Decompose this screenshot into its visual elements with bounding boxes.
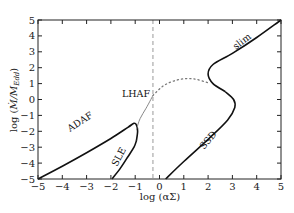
svg-text:log (Ṁ/MEdd): log (Ṁ/MEdd) [8,68,21,133]
y-axis-label: log (Ṁ/MEdd) [8,68,21,133]
x-tick-label: −3 [79,181,94,192]
curve-ssd [166,92,236,180]
y-axis-label-sub: Edd [13,71,21,87]
y-tick-label: 5 [29,15,35,26]
x-tick-label: 5 [278,181,284,192]
y-tick-label: 4 [29,30,35,41]
y-tick-label: 2 [29,62,35,73]
chart: −5−4−3−2−1012345−5−4−3−2−1012345 ADAF SL… [0,0,294,213]
y-axis-label-prefix: log ( [8,109,19,132]
y-tick-label: 3 [29,46,35,57]
x-tick-label: 2 [205,181,211,192]
y-axis-label-suffix: ) [8,68,19,72]
y-tick-label: −4 [20,158,35,169]
x-tick-label: −2 [104,181,119,192]
x-tick-label: −4 [55,181,70,192]
y-tick-label: −1 [20,110,35,121]
curve-label-adaf: ADAF [64,109,95,134]
y-tick-label: 1 [29,78,35,89]
y-tick-label: −3 [20,142,35,153]
curve-lhaf-connector [136,96,153,130]
y-tick-label: −2 [20,126,35,137]
y-tick-label: −5 [20,174,35,185]
x-tick-label: 4 [254,181,260,192]
x-tick-label: 1 [181,181,187,192]
y-axis-label-main: Ṁ/M [8,85,19,111]
curve-label-lhaf: LHAF [122,88,150,99]
curve-unstable-branch [153,79,208,96]
x-tick-label: 3 [229,181,235,192]
y-tick-label: 0 [29,94,35,105]
x-axis-label: log (αΣ) [140,191,181,202]
curve-label-sle: SLE [109,145,128,168]
